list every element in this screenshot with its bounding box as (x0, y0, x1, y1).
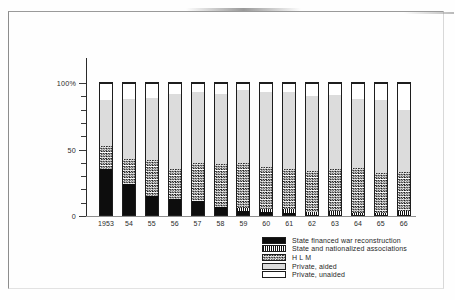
y-axis-tick (79, 150, 86, 151)
bar-segment (374, 173, 388, 213)
bar-65 (374, 83, 388, 216)
bar-62 (305, 83, 319, 216)
y-axis-label: 100% (40, 79, 76, 88)
bar-segment (99, 146, 113, 170)
bar-segment (191, 163, 205, 202)
bar-top-rule (305, 82, 319, 83)
bar-59 (236, 83, 250, 216)
y-axis-label: 50 (40, 146, 76, 155)
bar-top-rule (191, 82, 205, 83)
bar-top-rule (374, 82, 388, 83)
bar-segment (397, 211, 411, 215)
bar-segment (214, 94, 228, 164)
x-axis-label-66: 66 (391, 220, 417, 227)
bar-55 (145, 83, 159, 216)
y-axis-line (86, 58, 87, 217)
bar-segment (259, 167, 273, 210)
bar-top-rule (282, 82, 296, 83)
bar-segment (397, 110, 411, 173)
bar-top-rule (99, 82, 113, 83)
bar-segment (99, 100, 113, 145)
bar-segment (305, 96, 319, 170)
legend-item: State financed war reconstruction (262, 236, 442, 245)
scanned-page: 100%500 195354555657585960616263646566 S… (0, 0, 455, 300)
bar-segment (282, 209, 296, 213)
bar-segment (374, 100, 388, 173)
bar-57 (191, 83, 205, 216)
bar-66 (397, 83, 411, 216)
bar-segment (374, 213, 388, 215)
bar-segment (214, 83, 228, 94)
bar-61 (282, 83, 296, 216)
bar-top-rule (145, 82, 159, 83)
bar-segment (397, 172, 411, 211)
bar-segment (397, 83, 411, 110)
bar-segment (305, 83, 319, 96)
bar-58 (214, 83, 228, 216)
legend-label: Private, unaided (292, 271, 345, 278)
legend-item: State and nationalized associations (262, 245, 442, 254)
bar-top-rule (397, 82, 411, 83)
bar-segment (236, 90, 250, 163)
bar-segment (168, 83, 182, 94)
bar-63 (328, 83, 342, 216)
y-axis-tick (81, 123, 86, 124)
bar-segment (328, 83, 342, 95)
y-axis-tick (81, 96, 86, 97)
legend-item: H L M (262, 253, 442, 262)
bar-segment (282, 169, 296, 209)
legend-item: Private, aided (262, 262, 442, 271)
bar-segment (351, 213, 365, 216)
bar-segment (168, 199, 182, 216)
bar-segment (122, 184, 136, 216)
bar-segment (374, 83, 388, 100)
bar-segment (328, 169, 342, 211)
bar-segment (145, 83, 159, 98)
bar-segment (328, 215, 342, 216)
y-axis-tick (81, 189, 86, 190)
bar-top-rule (351, 82, 365, 83)
legend-swatch (262, 263, 286, 270)
legend-label: Private, aided (292, 263, 337, 270)
bar-segment (99, 83, 113, 100)
legend-label: H L M (292, 254, 311, 261)
bar-top-rule (259, 82, 273, 83)
legend-item: Private, unaided (262, 270, 442, 279)
y-axis-tick (81, 110, 86, 111)
bar-segment (236, 211, 250, 216)
bar-segment (351, 99, 365, 168)
y-axis-tick (79, 216, 86, 217)
bar-56 (168, 83, 182, 216)
bar-top-rule (214, 82, 228, 83)
bar-segment (351, 83, 365, 99)
y-axis-tick (81, 203, 86, 204)
bar-60 (259, 83, 273, 216)
y-axis-tick (81, 163, 86, 164)
bar-segment (145, 98, 159, 161)
bar-segment (145, 196, 159, 216)
y-axis-tick (81, 176, 86, 177)
bar-segment (191, 92, 205, 162)
bar-segment (328, 95, 342, 169)
bar-segment (282, 83, 296, 92)
bar-segment (305, 215, 319, 216)
bar-1953 (99, 83, 113, 216)
bar-segment (305, 171, 319, 212)
legend-swatch (262, 254, 286, 261)
bar-segment (191, 201, 205, 216)
bar-segment (168, 94, 182, 170)
bar-segment (259, 212, 273, 216)
bar-segment (282, 213, 296, 216)
bar-segment (282, 92, 296, 169)
legend-swatch (262, 245, 286, 252)
bar-54 (122, 83, 136, 216)
bar-top-rule (122, 82, 136, 83)
bar-segment (191, 83, 205, 92)
bar-segment (99, 169, 113, 216)
bar-top-rule (168, 82, 182, 83)
bar-segment (236, 83, 250, 90)
bar-64 (351, 83, 365, 216)
bar-segment (145, 160, 159, 196)
bar-segment (122, 83, 136, 99)
y-axis-tick (81, 136, 86, 137)
